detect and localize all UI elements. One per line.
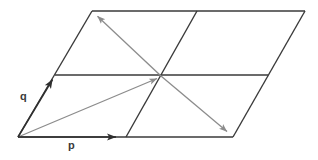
q-vector-label: q bbox=[20, 91, 27, 102]
lattice-line-right-edge bbox=[233, 11, 305, 137]
center-to-bottom-right-vector bbox=[161, 76, 227, 132]
lattice-diagram-canvas bbox=[0, 0, 318, 160]
lattice-outline-group bbox=[18, 11, 305, 137]
center-to-top-left-vector bbox=[98, 16, 162, 76]
origin-to-center-vector bbox=[18, 79, 157, 138]
lattice-vector-diagram: q p bbox=[0, 0, 318, 160]
lattice-line-middle-diagonal bbox=[126, 11, 197, 137]
basis-vector-group bbox=[18, 80, 116, 138]
gray-vector-group bbox=[18, 16, 227, 137]
q-basis-vector bbox=[18, 80, 53, 138]
p-vector-label: p bbox=[68, 140, 75, 151]
